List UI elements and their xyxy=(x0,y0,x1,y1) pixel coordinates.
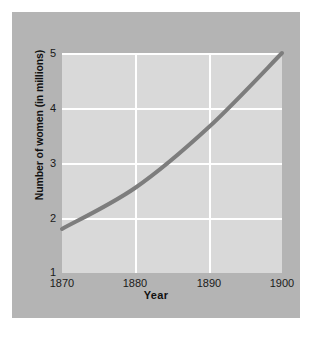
x-tick-1890: 1890 xyxy=(186,277,232,289)
x-tick-1900: 1900 xyxy=(259,277,305,289)
y-tick-2: 2 xyxy=(26,212,56,224)
y-tick-3: 3 xyxy=(26,157,56,169)
x-axis-title: Year xyxy=(12,289,300,301)
plot-area xyxy=(62,53,282,273)
y-tick-5: 5 xyxy=(26,47,56,59)
x-tick-1880: 1880 xyxy=(112,277,158,289)
x-tick-1870: 1870 xyxy=(39,277,85,289)
chart-figure: Number of women (in millions) 5 4 3 2 1 … xyxy=(12,12,300,318)
y-tick-4: 4 xyxy=(26,102,56,114)
data-line xyxy=(62,53,282,273)
